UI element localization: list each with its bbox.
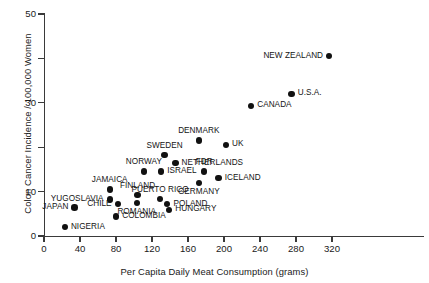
data-point — [134, 200, 140, 206]
x-tick-240 — [259, 236, 260, 242]
y-tick-label-30: 30 — [0, 97, 36, 108]
data-point — [288, 91, 294, 97]
data-point-label: U.S.A. — [298, 89, 322, 97]
y-tick-50 — [38, 13, 44, 14]
y-tick-20 — [38, 147, 44, 148]
x-tick-label-320: 320 — [312, 243, 352, 254]
x-tick-200 — [223, 236, 224, 242]
data-point-label: CANADA — [257, 101, 291, 109]
x-tick-label-40: 40 — [60, 243, 100, 254]
data-point — [166, 207, 172, 213]
scatter-plot: Colon Cancer Incidence / 100,000 Women P… — [0, 0, 429, 283]
data-point — [158, 168, 164, 174]
data-point — [196, 180, 202, 186]
x-tick-160 — [187, 236, 188, 242]
data-point-label: NORWAY — [126, 158, 162, 166]
data-point-label: GERMANY — [178, 188, 220, 196]
x-tick-label-240: 240 — [240, 243, 280, 254]
data-point-label: SWEDEN — [146, 142, 182, 150]
data-point-label: HUNGARY — [175, 205, 216, 213]
x-tick-label-280: 280 — [276, 243, 316, 254]
data-point — [62, 224, 68, 230]
x-tick-label-200: 200 — [204, 243, 244, 254]
x-tick-label-120: 120 — [132, 243, 172, 254]
data-point — [223, 142, 229, 148]
x-tick-120 — [151, 236, 152, 242]
data-point-label: ROMANIA — [117, 208, 156, 216]
data-point-label: FDR — [196, 158, 213, 166]
x-tick-40 — [79, 236, 80, 242]
data-point-label: ISRAEL — [167, 167, 196, 175]
x-axis-title: Per Capita Daily Meat Consumption (grams… — [0, 266, 429, 277]
data-point — [141, 168, 147, 174]
y-axis-title: Colon Cancer Incidence / 100,000 Women — [22, 9, 33, 239]
x-axis-line — [44, 236, 424, 237]
x-tick-280 — [295, 236, 296, 242]
data-point — [201, 168, 207, 174]
x-tick-80 — [115, 236, 116, 242]
x-tick-label-160: 160 — [168, 243, 208, 254]
data-point — [157, 196, 163, 202]
y-tick-10 — [38, 191, 44, 192]
data-point — [215, 175, 221, 181]
data-point-label: NIGERIA — [71, 223, 105, 231]
data-point-label: CHILE — [87, 200, 111, 208]
y-tick-label-10: 10 — [0, 186, 36, 197]
x-tick-320 — [331, 236, 332, 242]
data-point — [161, 152, 167, 158]
data-point-label: NEW ZEALAND — [263, 52, 323, 60]
data-point-label: ICELAND — [225, 174, 261, 182]
data-point-label: JAPAN — [42, 203, 68, 211]
data-point-label: UK — [232, 140, 243, 148]
x-tick-0 — [43, 236, 44, 242]
y-tick-30 — [38, 102, 44, 103]
data-point — [196, 137, 202, 143]
data-point — [248, 103, 254, 109]
data-point — [326, 53, 332, 59]
y-tick-label-0: 0 — [0, 230, 36, 241]
data-point — [71, 204, 77, 210]
data-point-label: DENMARK — [178, 127, 219, 135]
y-tick-label-50: 50 — [0, 8, 36, 19]
y-tick-40 — [38, 58, 44, 59]
x-tick-label-80: 80 — [96, 243, 136, 254]
data-point — [172, 160, 178, 166]
x-tick-label-0: 0 — [24, 243, 64, 254]
data-point — [107, 186, 113, 192]
